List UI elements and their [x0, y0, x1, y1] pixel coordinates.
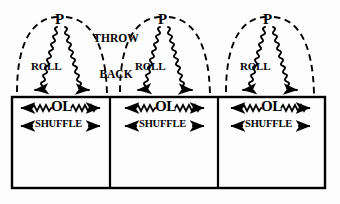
- throw-back-line1: THROW: [88, 32, 144, 44]
- roll-label-3: ROLL: [240, 61, 270, 72]
- peak-label-3: P: [263, 12, 272, 27]
- diagram-canvas: THROW BACK P P P ROLL ROLL ROLL OL OL OL…: [0, 0, 340, 204]
- roll-wave-right-1: [65, 27, 89, 90]
- throwback-arc-right-3: [274, 17, 314, 95]
- roll-label-1: ROLL: [31, 61, 61, 72]
- peak-label-2: P: [158, 12, 167, 27]
- shuffle-label-1: SHUFFLE: [35, 119, 82, 130]
- trajectory-group-3: [226, 17, 314, 95]
- shuffle-label-3: SHUFFLE: [245, 119, 292, 130]
- shuffle-label-2: SHUFFLE: [139, 119, 186, 130]
- ol-label-2: OL: [155, 99, 176, 114]
- roll-wave-left-3: [243, 27, 265, 90]
- roll-label-2: ROLL: [135, 61, 165, 72]
- ol-label-3: OL: [261, 99, 282, 114]
- ol-label-1: OL: [51, 99, 72, 114]
- roll-wave-right-2: [168, 27, 192, 90]
- roll-wave-left-1: [35, 27, 57, 90]
- roll-wave-right-3: [273, 27, 297, 90]
- throw-back-label: THROW BACK: [88, 8, 144, 105]
- throwback-arc-right-2: [169, 17, 210, 95]
- peak-label-1: P: [55, 12, 64, 27]
